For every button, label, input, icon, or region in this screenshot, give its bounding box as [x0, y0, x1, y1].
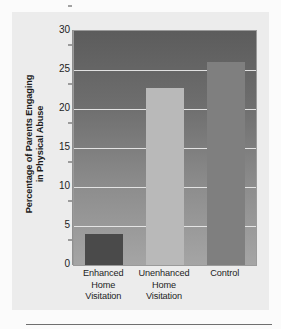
y-axis-title-text: Percentage of Parents Engaging in Physic…: [24, 75, 47, 214]
x-axis-category-label: EnhancedHomeVisitation: [73, 268, 134, 303]
x-axis-category-label-line: Home: [134, 280, 195, 292]
x-axis-category-label-line: Home: [73, 280, 134, 292]
bar: [85, 234, 123, 265]
y-axis-tick-mark: [68, 201, 72, 202]
x-axis-category-label-line: Enhanced: [73, 268, 134, 280]
x-axis-category-label-line: Control: [194, 268, 255, 280]
footer-rule: [26, 324, 272, 325]
y-axis-tick-label: 5: [48, 220, 70, 230]
bar: [207, 62, 245, 265]
y-axis-tick-labels: 051015202530: [48, 24, 70, 268]
x-axis-category-label-line: Visitation: [73, 291, 134, 303]
x-axis-category-label-line: Unenhanced: [134, 268, 195, 280]
y-axis-tick-mark: [68, 123, 72, 124]
y-axis-title-line-1: Percentage of Parents Engaging: [24, 75, 34, 214]
y-axis-title-line-2: in Physical Abuse: [35, 106, 45, 183]
y-axis-tick-label: 20: [48, 103, 70, 113]
y-axis-tick-label: 15: [48, 142, 70, 152]
figure: Percentage of Parents Engaging in Physic…: [0, 0, 281, 329]
y-axis-tick-mark: [68, 162, 72, 163]
x-axis-category-labels: EnhancedHomeVisitationUnenhancedHomeVisi…: [73, 268, 255, 310]
y-axis-tick-label: 30: [48, 25, 70, 35]
y-axis-tick-mark: [68, 6, 72, 7]
y-axis-title: Percentage of Parents Engaging in Physic…: [18, 28, 52, 260]
y-axis-tick-label: 25: [48, 64, 70, 74]
x-axis-category-label: UnenhancedHomeVisitation: [134, 268, 195, 303]
y-axis-tick-mark: [68, 240, 72, 241]
bar: [146, 88, 184, 265]
y-axis-tick-mark: [68, 84, 72, 85]
y-axis-tick-label: 0: [48, 259, 70, 269]
y-axis-tick-mark: [68, 45, 72, 46]
x-axis-category-label: Control: [194, 268, 255, 280]
plot-area: [73, 30, 257, 266]
x-axis-category-label-line: Visitation: [134, 291, 195, 303]
y-axis-tick-label: 10: [48, 181, 70, 191]
